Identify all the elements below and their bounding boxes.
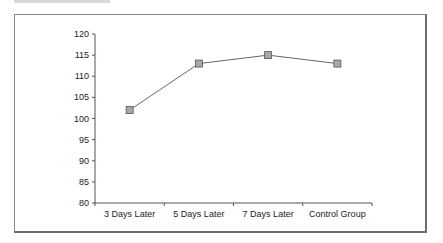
y-tick-label: 95	[79, 135, 89, 145]
y-tick-label: 105	[74, 92, 89, 102]
data-point-marker	[195, 60, 202, 67]
x-tick-label: 7 Days Later	[243, 209, 294, 219]
y-tick-label: 85	[79, 177, 89, 187]
data-series	[126, 52, 341, 114]
y-tick-label: 115	[75, 50, 89, 60]
data-point-marker	[265, 52, 272, 59]
y-tick-label: 80	[79, 198, 89, 208]
series-line	[130, 55, 338, 110]
data-point-marker	[334, 60, 341, 67]
data-point-marker	[126, 107, 133, 114]
y-tick-label: 100	[74, 114, 89, 124]
x-tick-label: 3 Days Later	[104, 209, 155, 219]
y-axis-labels: 80859095100105110115120	[74, 29, 89, 208]
x-axis-labels: 3 Days Later5 Days Later7 Days LaterCont…	[104, 209, 366, 219]
x-tick-label: Control Group	[309, 209, 366, 219]
y-tick-label: 120	[74, 29, 89, 39]
y-tick-label: 110	[75, 71, 89, 81]
y-tick-label: 90	[79, 156, 89, 166]
line-chart: 80859095100105110115120 3 Days Later5 Da…	[0, 0, 443, 243]
x-tick-label: 5 Days Later	[173, 209, 224, 219]
